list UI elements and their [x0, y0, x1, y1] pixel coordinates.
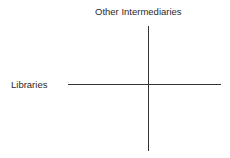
vertical-axis: [148, 26, 149, 151]
horizontal-axis: [68, 84, 221, 85]
top-axis-label: Other Intermediaries: [95, 6, 182, 17]
left-axis-label: Libraries: [11, 79, 47, 90]
